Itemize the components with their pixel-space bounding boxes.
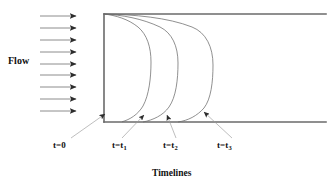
timeline-curve-t3 [104,14,213,122]
figure-root: Flow t=0 t=t1 t=t2 t=t3 Timelines [0,0,336,186]
timeline-label-t1-prefix: t=t [112,140,123,150]
timeline-label-t3: t=t3 [217,141,231,150]
leader-lines [71,112,232,138]
inflow-arrow-group [40,16,76,111]
leader-t0 [71,114,105,138]
leader-t2 [167,115,176,138]
timelines-diagram [0,0,336,186]
timeline-label-t1-sub: 1 [123,144,126,151]
leader-t1 [122,115,144,138]
timeline-curves [104,14,213,122]
channel-walls [104,14,326,122]
timeline-label-t2: t=t2 [163,141,177,150]
leader-t3 [204,112,232,138]
timeline-label-t2-prefix: t=t [163,140,174,150]
timeline-label-t3-prefix: t=t [217,140,228,150]
timeline-label-t3-sub: 3 [228,144,231,151]
timeline-curve-t1 [104,14,151,122]
timeline-label-t1: t=t1 [112,141,126,150]
timeline-label-t2-sub: 2 [174,144,177,151]
timeline-label-t0: t=0 [53,141,66,150]
flow-label: Flow [8,56,29,66]
timelines-caption: Timelines [152,169,191,179]
